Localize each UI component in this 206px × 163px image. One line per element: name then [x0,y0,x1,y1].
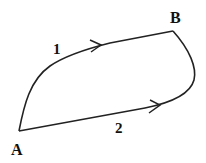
path-1-label: 1 [53,41,61,57]
path-2-label: 2 [115,120,123,136]
path-1-curve [19,31,173,131]
point-a-label: A [11,141,23,158]
point-b-label: B [170,9,181,26]
path-1-arrow-icon [90,40,101,52]
path-2-curve [19,31,195,131]
path-diagram: A B 1 2 [0,0,206,163]
